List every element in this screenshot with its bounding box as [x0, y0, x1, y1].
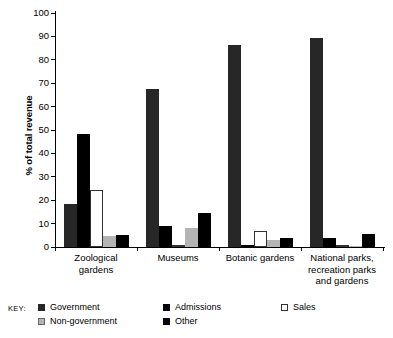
y-axis-tick-label: 0 [19, 242, 49, 252]
y-axis-tick-label: 10 [19, 219, 49, 229]
y-axis-tick-mark [51, 153, 55, 154]
y-axis-tick-mark [51, 59, 55, 60]
y-axis-tick-mark [51, 36, 55, 37]
y-axis-tick-mark [51, 106, 55, 107]
y-axis-tick-mark [51, 130, 55, 131]
bar[interactable] [77, 134, 90, 247]
bar[interactable] [90, 190, 103, 247]
legend-key-label: KEY: [8, 304, 26, 313]
legend-item-label: Other [175, 316, 198, 326]
plot-area: 0102030405060708090100 [55, 13, 383, 247]
bar[interactable] [146, 89, 159, 247]
y-axis-tick-label: 60 [19, 102, 49, 112]
bar[interactable] [159, 226, 172, 247]
x-axis-group-label: Botanic gardens [219, 252, 301, 264]
bar-group [228, 13, 293, 247]
y-axis-tick-mark [51, 223, 55, 224]
x-axis-group-label: Zoological gardens [55, 252, 137, 275]
legend-swatch-icon [38, 318, 45, 325]
bar[interactable] [280, 238, 293, 247]
bar[interactable] [198, 213, 211, 247]
bar[interactable] [349, 246, 362, 247]
legend-swatch-icon [281, 304, 288, 311]
bar[interactable] [323, 238, 336, 247]
y-axis-tick-label: 30 [19, 172, 49, 182]
legend-item-label: Sales [293, 302, 316, 312]
bar[interactable] [64, 204, 77, 247]
legend-item[interactable]: Non-government [38, 316, 117, 326]
y-axis-tick-mark [51, 200, 55, 201]
legend-swatch-icon [163, 304, 170, 311]
bar-group-bars [64, 13, 129, 247]
y-axis-tick-mark [51, 13, 55, 14]
legend-item[interactable]: Admissions [163, 302, 221, 312]
legend-item[interactable]: Government [38, 302, 100, 312]
legend-item-label: Admissions [175, 302, 221, 312]
bar-group-bars [146, 13, 211, 247]
y-axis-tick-label: 40 [19, 148, 49, 158]
bar[interactable] [185, 228, 198, 247]
bar[interactable] [228, 45, 241, 247]
x-axis-group-label: Museums [137, 252, 219, 264]
y-axis-tick-label: 100 [19, 8, 49, 18]
legend-item-label: Government [50, 302, 100, 312]
x-axis-line [55, 247, 385, 248]
bar[interactable] [172, 245, 185, 247]
bar-group-bars [228, 13, 293, 247]
y-axis-tick-label: 50 [19, 125, 49, 135]
x-axis-tick-mark [383, 247, 384, 251]
y-axis-tick-label: 70 [19, 78, 49, 88]
y-axis-tick-mark [51, 83, 55, 84]
y-axis-tick-label: 80 [19, 55, 49, 65]
bar[interactable] [116, 235, 129, 247]
bar[interactable] [336, 245, 349, 247]
legend-item[interactable]: Other [163, 316, 198, 326]
bar-group [310, 13, 375, 247]
bar[interactable] [267, 240, 280, 247]
legend-item[interactable]: Sales [281, 302, 316, 312]
x-axis-tick-mark [137, 247, 138, 251]
bar[interactable] [103, 236, 116, 247]
bar-chart: % of total revenue 010203040506070809010… [0, 0, 393, 338]
y-axis-tick-label: 90 [19, 31, 49, 41]
bar-group-bars [310, 13, 375, 247]
bar[interactable] [254, 231, 267, 247]
legend-swatch-icon [38, 304, 45, 311]
legend-item-label: Non-government [50, 316, 117, 326]
bar[interactable] [241, 245, 254, 247]
bar-group [64, 13, 129, 247]
x-axis-tick-mark [219, 247, 220, 251]
legend-swatch-icon [163, 318, 170, 325]
x-axis-group-label: National parks, recreation parks and gar… [301, 252, 383, 287]
bar[interactable] [362, 234, 375, 247]
x-axis-tick-mark [301, 247, 302, 251]
y-axis-tick-label: 20 [19, 195, 49, 205]
x-axis-tick-mark [55, 247, 56, 251]
y-axis-tick-mark [51, 176, 55, 177]
bar-group [146, 13, 211, 247]
bar[interactable] [310, 38, 323, 247]
